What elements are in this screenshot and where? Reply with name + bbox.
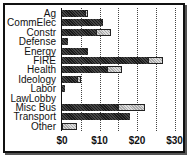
- bar-segment: [148, 57, 163, 64]
- bar-segment: [62, 10, 85, 17]
- x-tick-label: $20: [129, 135, 146, 146]
- x-tick-label: $10: [91, 135, 108, 146]
- bar-segment: [85, 10, 89, 17]
- gridline: [175, 8, 176, 131]
- bar-segment: [62, 19, 103, 26]
- x-tick-label: $0: [56, 135, 67, 146]
- bar-segment: [118, 104, 144, 111]
- bar-segment: [62, 48, 88, 55]
- bar-segment: [62, 85, 65, 92]
- gridline: [156, 8, 157, 131]
- category-label: Other: [31, 122, 56, 132]
- bar-segment: [62, 38, 68, 45]
- bar-segment: [96, 29, 111, 36]
- bar-segment: [62, 66, 107, 73]
- bar-segment: [62, 104, 118, 111]
- gridline: [137, 8, 138, 131]
- bar-segment: [77, 76, 81, 83]
- bar-segment: [107, 66, 122, 73]
- bar-segment: [62, 113, 130, 120]
- bar-segment: [62, 57, 148, 64]
- x-tick-label: $30: [166, 135, 183, 146]
- bar-segment: [62, 29, 96, 36]
- bar-segment: [62, 123, 77, 130]
- bar-segment: [62, 76, 77, 83]
- plot-area: [61, 8, 182, 131]
